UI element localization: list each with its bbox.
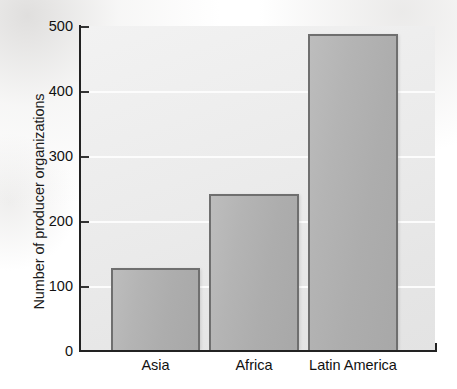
y-tick-mark-300 <box>81 156 89 158</box>
y-tick-label-200: 200 <box>26 213 73 229</box>
y-tick-label-400: 400 <box>26 83 73 99</box>
y-tick-label-300: 300 <box>26 148 73 164</box>
x-axis-end-tick <box>435 343 437 352</box>
bar-africa[interactable] <box>209 194 299 351</box>
y-tick-mark-400 <box>81 91 89 93</box>
x-axis-line <box>79 350 437 352</box>
x-tick-label-africa: Africa <box>209 357 299 373</box>
y-tick-mark-500 <box>81 26 89 28</box>
bar-asia[interactable] <box>111 268 200 351</box>
plot-area <box>81 26 435 351</box>
x-tick-label-asia: Asia <box>111 357 200 373</box>
y-tick-mark-100 <box>81 286 89 288</box>
y-axis-line <box>79 25 81 352</box>
y-tick-label-0: 0 <box>26 343 73 359</box>
y-axis-title: Number of producer organizations <box>26 26 52 377</box>
y-tick-mark-200 <box>81 221 89 223</box>
bar-chart-figure: Number of producer organizations 500 400… <box>0 0 457 389</box>
bar-latin-america[interactable] <box>308 34 398 351</box>
y-tick-label-100: 100 <box>26 278 73 294</box>
x-tick-label-latin-america: Latin America <box>298 357 408 373</box>
y-tick-label-500: 500 <box>26 18 73 34</box>
